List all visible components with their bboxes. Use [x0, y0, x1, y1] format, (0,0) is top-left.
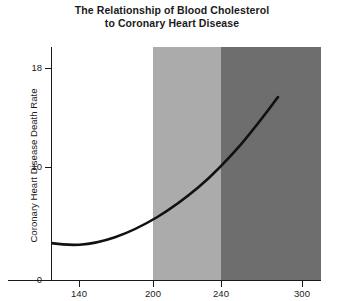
x-tick-mark-240: [221, 281, 222, 287]
x-tick-mark-200: [153, 281, 154, 287]
x-tick-label-240: 240: [201, 288, 241, 299]
x-tick-label-200: 200: [133, 288, 173, 299]
x-tick-label-140: 140: [59, 288, 99, 299]
y-tick-mark-0: [45, 280, 52, 281]
y-axis-line: [51, 47, 52, 281]
x-tick-mark-300: [302, 281, 303, 287]
y-tick-mark-18: [45, 68, 52, 69]
x-tick-mark-140: [79, 281, 80, 287]
chart-title: The Relationship of Blood Cholesterol to…: [0, 4, 344, 30]
plot-area: [51, 47, 321, 280]
chart-title-line-1: The Relationship of Blood Cholesterol: [0, 4, 344, 17]
y-tick-mark-10: [45, 167, 52, 168]
y-axis-title: Coronary Heart Disease Death Rate: [28, 51, 39, 281]
x-tick-label-300: 300: [282, 288, 322, 299]
chart-figure: The Relationship of Blood Cholesterol to…: [0, 0, 344, 301]
death-rate-curve: [51, 47, 321, 280]
chart-title-line-2: to Coronary Heart Disease: [0, 17, 344, 30]
x-axis-line: [8, 280, 321, 281]
